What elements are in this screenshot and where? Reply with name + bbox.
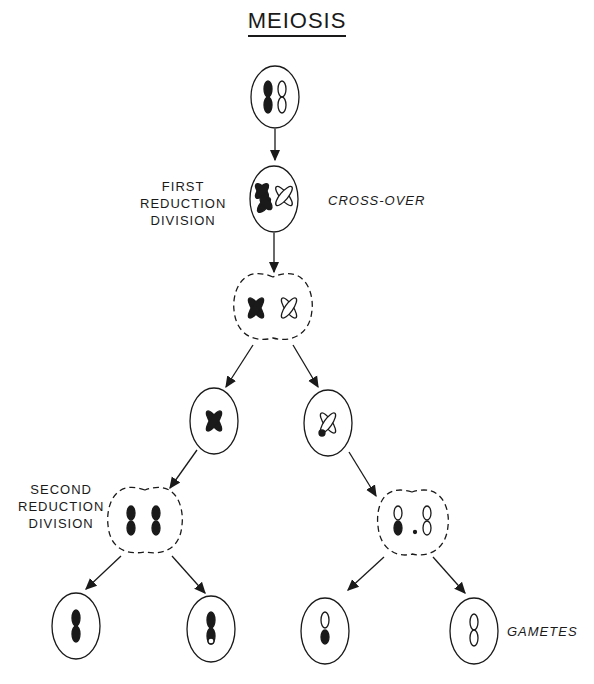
- gametes-label: GAMETES: [507, 624, 578, 639]
- gamete-2: [187, 596, 235, 662]
- light-homolog: [278, 81, 286, 113]
- crossover-cell: [250, 166, 298, 232]
- parent-cell: [251, 66, 299, 128]
- dividing-cell-1: [234, 274, 313, 340]
- first-division-label: FIRST REDUCTION DIVISION: [140, 178, 226, 229]
- second-division-label: SECOND REDUCTION DIVISION: [18, 481, 104, 532]
- daughter-cell-right: [304, 390, 352, 456]
- gamete-4: [450, 598, 498, 664]
- gamete-3: [301, 598, 349, 664]
- dark-homolog: [264, 81, 272, 113]
- dividing-cell-2-right: [378, 490, 449, 555]
- cross-over-label: CROSS-OVER: [328, 193, 425, 208]
- light-tetrad: [273, 184, 295, 208]
- daughter-cell-left: [190, 388, 238, 454]
- dark-tetrad: [253, 182, 274, 215]
- dividing-cell-2-left: [108, 487, 183, 552]
- meiosis-diagram: [0, 0, 594, 684]
- gamete-1: [52, 593, 100, 659]
